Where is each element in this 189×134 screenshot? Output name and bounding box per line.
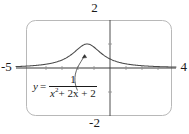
denominator-remainder: + 2x + 2 bbox=[59, 87, 96, 99]
equation-lhs: y bbox=[33, 81, 40, 92]
window-label-xmin: -5 bbox=[1, 60, 12, 73]
graph-figure: 2 -2 -5 4 y = 1 x2+ 2x + 2 bbox=[0, 0, 189, 134]
leader-arrowhead bbox=[82, 55, 86, 59]
function-curve bbox=[16, 44, 176, 67]
fraction-numerator: 1 bbox=[66, 74, 80, 86]
window-label-xmax: 4 bbox=[181, 60, 188, 73]
equation-equals-sign: = bbox=[40, 81, 49, 92]
plot-canvas bbox=[0, 0, 189, 134]
fraction-denominator: x2+ 2x + 2 bbox=[49, 87, 97, 100]
window-label-ymin: -2 bbox=[0, 116, 189, 129]
equation-label: y = 1 x2+ 2x + 2 bbox=[33, 74, 97, 99]
window-label-ymax: 2 bbox=[0, 1, 189, 14]
equation-fraction: 1 x2+ 2x + 2 bbox=[49, 74, 97, 99]
